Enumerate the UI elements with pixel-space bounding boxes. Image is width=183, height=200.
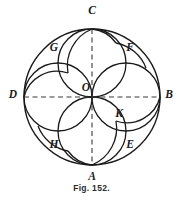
geometric-figure: C A D B G F H E K O <box>0 0 183 200</box>
label-point-O: O <box>82 81 90 93</box>
label-point-D: D <box>8 88 18 100</box>
label-point-C: C <box>88 4 96 16</box>
figure-container: C A D B G F H E K O Fig. 152. <box>0 0 183 200</box>
label-point-K: K <box>114 107 124 119</box>
label-point-E: E <box>125 138 134 150</box>
label-point-A: A <box>87 170 96 182</box>
label-point-G: G <box>50 41 59 53</box>
small-arc-upper-left <box>24 71 68 97</box>
figure-caption: Fig. 152. <box>0 183 183 193</box>
label-point-F: F <box>125 41 134 53</box>
label-point-H: H <box>49 138 60 150</box>
label-point-B: B <box>164 88 173 100</box>
